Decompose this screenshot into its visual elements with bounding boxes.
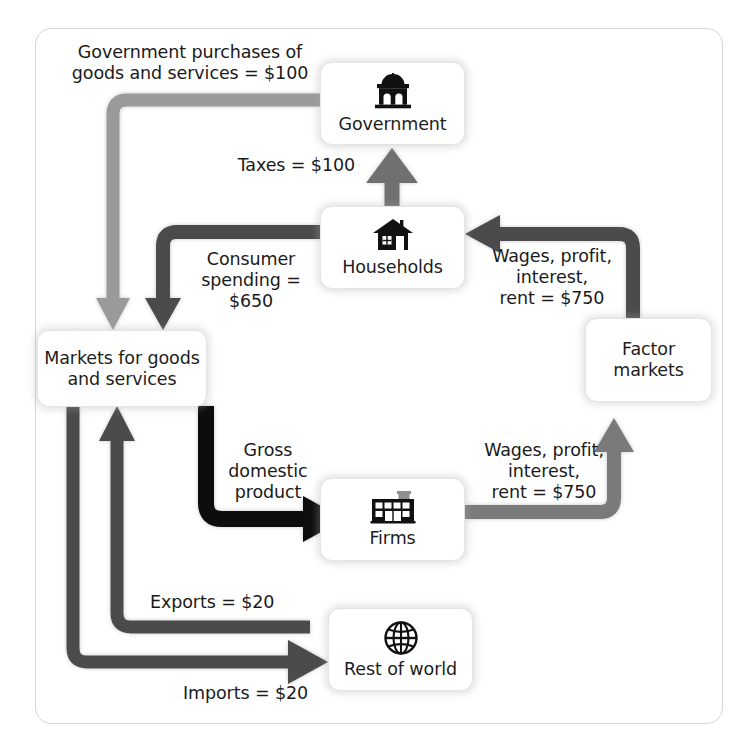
node-markets-for-goods-and-services[interactable]: Markets for goods and services (37, 330, 207, 407)
house-icon (371, 217, 415, 254)
flow-label-taxes: Taxes = $100 (215, 155, 355, 176)
globe-icon (383, 620, 419, 656)
flow-label-imports: Imports = $20 (183, 683, 343, 704)
node-firms-label: Firms (369, 528, 415, 549)
circular-flow-diagram: Government Households Markets for goods … (0, 0, 756, 756)
flow-label-exports: Exports = $20 (150, 592, 310, 613)
node-households[interactable]: Households (320, 206, 465, 289)
flow-label-gross-domestic-product: Gross domestic product (213, 440, 323, 503)
factory-icon (369, 491, 417, 525)
node-firms[interactable]: Firms (320, 478, 465, 561)
flow-label-wages-to-households: Wages, profit, interest, rent = $750 (488, 246, 616, 309)
node-government[interactable]: Government (320, 62, 465, 145)
node-government-label: Government (338, 114, 446, 135)
node-rest-of-world-label: Rest of world (344, 659, 457, 680)
flow-label-government-purchases: Government purchases of goods and servic… (55, 42, 325, 84)
node-factor-markets-label: Factor markets (586, 339, 711, 380)
flow-label-wages-from-firms: Wages, profit, interest, rent = $750 (480, 440, 608, 503)
node-households-label: Households (342, 257, 443, 278)
node-markets-label: Markets for goods and services (38, 348, 206, 389)
capitol-building-icon (370, 73, 416, 111)
node-rest-of-world[interactable]: Rest of world (328, 608, 473, 691)
node-factor-markets[interactable]: Factor markets (585, 318, 712, 402)
flow-label-consumer-spending: Consumer spending = $650 (178, 249, 324, 312)
